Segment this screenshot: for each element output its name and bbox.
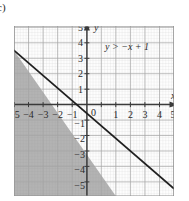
x-tick-label: 5 — [171, 109, 175, 120]
x-tick-label: 3 — [142, 109, 147, 120]
x-tick-label: −4 — [23, 109, 34, 120]
inequality-annotation: y > −x + 1 — [104, 41, 149, 52]
x-axis-label: x — [170, 90, 174, 101]
y-tick-label: 3 — [78, 53, 83, 64]
x-tick-label: −2 — [52, 109, 63, 120]
plot-svg: y x −5 −4 −3 −2 −1 1 2 3 4 5 0 5 4 3 — [14, 26, 174, 196]
x-tick-label: −5 — [14, 109, 20, 120]
y-tick-label: −1 — [74, 118, 85, 129]
y-tick-label: −4 — [74, 164, 85, 175]
part-label: c) — [0, 1, 6, 13]
x-tick-label: 1 — [113, 109, 118, 120]
x-tick-label: 2 — [128, 109, 133, 120]
y-tick-label: 1 — [78, 84, 83, 95]
coordinate-plane: y x −5 −4 −3 −2 −1 1 2 3 4 5 0 5 4 3 — [14, 26, 174, 196]
inequality-graph-figure: c) — [0, 0, 189, 201]
y-tick-label: 2 — [78, 68, 83, 79]
y-tick-label: 5 — [78, 26, 83, 33]
y-tick-label: −5 — [74, 180, 85, 191]
y-tick-label: −2 — [74, 133, 85, 144]
x-tick-label: 4 — [157, 109, 162, 120]
y-tick-label: 4 — [78, 37, 83, 48]
y-tick-label: −3 — [74, 149, 85, 160]
origin-label: 0 — [91, 107, 96, 118]
y-axis-label: y — [93, 26, 99, 33]
x-tick-label: −3 — [38, 109, 49, 120]
